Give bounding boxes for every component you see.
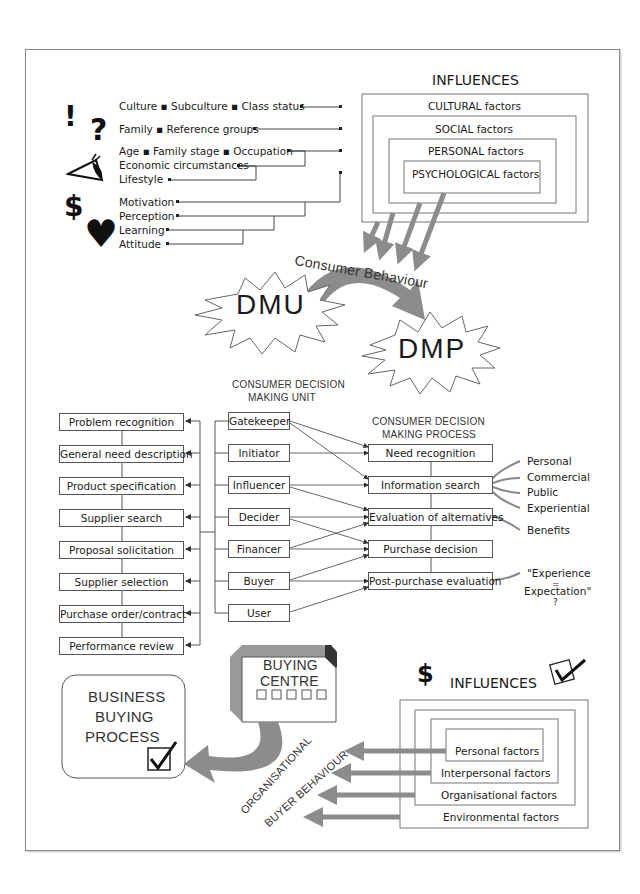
bottom-layer-organisational: Organisational factors: [441, 789, 557, 802]
dmp-step-evaluation: Evaluation of alternatives: [368, 508, 493, 526]
bp-step-supplier-selection: Supplier selection: [59, 573, 184, 591]
dmp-step-information-search: Information search: [368, 476, 493, 494]
factor-line-learning: Learning: [119, 224, 165, 237]
exclamation-icon: !: [64, 100, 77, 133]
dmp-step-need-recognition: Need recognition: [368, 444, 493, 462]
source-personal: Personal: [527, 455, 572, 468]
bp-step-purchase-order: Purchase order/contract: [59, 605, 184, 623]
business-buying-line2: BUYING: [95, 708, 154, 726]
dmu-caption-1: CONSUMER DECISION: [232, 378, 345, 391]
source-experiential: Experiential: [527, 502, 590, 515]
bp-step-performance-review: Performance review: [59, 637, 184, 655]
layer-social: SOCIAL factors: [435, 123, 513, 136]
source-commercial: Commercial: [527, 471, 590, 484]
dmu-label: DMU: [236, 298, 306, 311]
bp-step-supplier-search: Supplier search: [59, 509, 184, 527]
role-initiator: Initiator: [228, 444, 290, 462]
role-buyer: Buyer: [228, 572, 290, 590]
buying-centre-line1: BUYING: [263, 657, 318, 673]
bp-step-problem-recognition: Problem recognition: [59, 413, 184, 431]
factor-line-attitude: Attitude: [119, 238, 161, 251]
dmp-step-post-purchase: Post-purchase evaluation: [368, 572, 493, 590]
dmp-step-purchase-decision: Purchase decision: [368, 540, 493, 558]
top-influences-title: INFLUENCES: [432, 74, 519, 87]
factor-line-lifestyle: Lifestyle: [119, 173, 163, 186]
dollar-icon-bottom: $: [417, 660, 434, 688]
business-buying-line3: PROCESS: [85, 728, 160, 746]
bottom-layer-personal: Personal factors: [455, 745, 539, 758]
dmp-caption-1: CONSUMER DECISION: [372, 415, 485, 428]
layer-personal: PERSONAL factors: [428, 145, 524, 158]
bottom-layer-interpersonal: Interpersonal factors: [441, 767, 551, 780]
eye-icon: [66, 152, 106, 188]
factor-line-social: Family ▪ Reference groups: [119, 123, 259, 136]
factor-line-personal-age: Age ▪ Family stage ▪ Occupation: [119, 145, 293, 158]
bp-step-proposal: Proposal solicitation: [59, 541, 184, 559]
heart-icon: ♥: [84, 212, 118, 256]
factor-line-cultural: Culture ▪ Subculture ▪ Class status: [119, 100, 305, 113]
evaluation-benefits: Benefits: [527, 524, 570, 537]
dmu-caption-2: MAKING UNIT: [248, 391, 316, 404]
bp-step-general-need: General need description: [59, 445, 184, 463]
bottom-layer-environmental: Environmental factors: [443, 811, 559, 824]
business-buying-line1: BUSINESS: [88, 688, 165, 706]
dmp-caption-2: MAKING PROCESS: [382, 428, 476, 441]
dollar-icon: $: [64, 190, 83, 223]
role-user: User: [228, 604, 290, 622]
layer-psychological: PSYCHOLOGICAL factors: [412, 168, 539, 181]
factor-line-motivation: Motivation: [119, 196, 174, 209]
factor-line-perception: Perception: [119, 210, 175, 223]
buying-centre-line2: CENTRE: [260, 673, 319, 689]
role-gatekeeper: Gatekeeper: [228, 412, 290, 430]
source-public: Public: [527, 486, 558, 499]
role-decider: Decider: [228, 508, 290, 526]
role-financer: Financer: [228, 540, 290, 558]
dmp-label: DMP: [398, 342, 466, 355]
role-influencer: Influencer: [228, 476, 290, 494]
post-purchase-note-4: ?: [553, 596, 558, 609]
bottom-influences-title: INFLUENCES: [450, 677, 537, 690]
bp-step-product-spec: Product specification: [59, 477, 184, 495]
factor-line-economic: Economic circumstances: [119, 159, 249, 172]
layer-cultural: CULTURAL factors: [428, 100, 521, 113]
question-icon: ?: [90, 112, 107, 147]
